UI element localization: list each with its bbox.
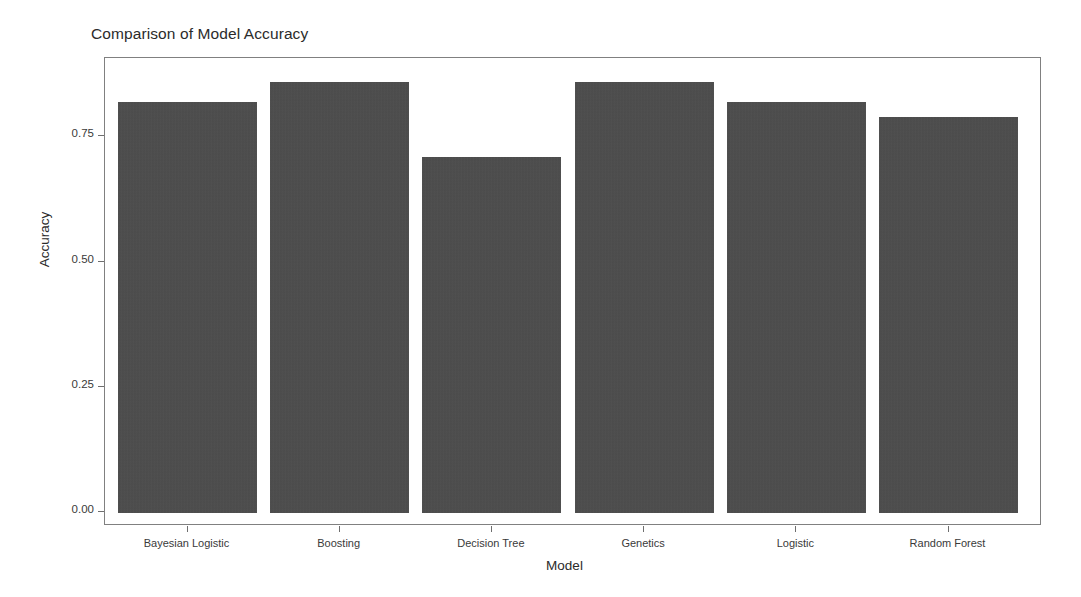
bar xyxy=(118,102,257,513)
x-tick-mark xyxy=(187,526,188,532)
y-tick-mark xyxy=(98,135,104,136)
y-axis-title: Accuracy xyxy=(37,160,52,320)
x-tick-label: Decision Tree xyxy=(457,537,524,549)
y-tick-label: 0.75 xyxy=(72,127,94,139)
y-tick-mark xyxy=(98,511,104,512)
bar xyxy=(575,82,714,513)
x-tick-label: Bayesian Logistic xyxy=(144,537,230,549)
x-tick-mark xyxy=(491,526,492,532)
plot-panel xyxy=(104,57,1041,525)
y-tick-label: 0.50 xyxy=(72,253,94,265)
x-tick-label: Boosting xyxy=(317,537,360,549)
bars-layer xyxy=(105,58,1040,524)
bar xyxy=(727,102,866,513)
chart-title: Comparison of Model Accuracy xyxy=(91,25,308,43)
y-tick-label: 0.00 xyxy=(72,503,94,515)
y-tick-mark xyxy=(98,386,104,387)
bar xyxy=(270,82,409,513)
x-tick-mark xyxy=(795,526,796,532)
y-tick-label: 0.25 xyxy=(72,378,94,390)
chart-figure: Comparison of Model Accuracy 0.000.250.5… xyxy=(0,0,1081,597)
x-axis-title-text: Model xyxy=(546,558,583,573)
x-tick-label: Random Forest xyxy=(910,537,986,549)
x-tick-label: Genetics xyxy=(621,537,664,549)
x-tick-label: Logistic xyxy=(777,537,814,549)
x-axis-title: Model xyxy=(0,558,1081,573)
y-tick-mark xyxy=(98,261,104,262)
bar xyxy=(879,117,1018,513)
x-tick-mark xyxy=(948,526,949,532)
x-tick-mark xyxy=(643,526,644,532)
bar xyxy=(422,157,561,513)
x-tick-mark xyxy=(339,526,340,532)
